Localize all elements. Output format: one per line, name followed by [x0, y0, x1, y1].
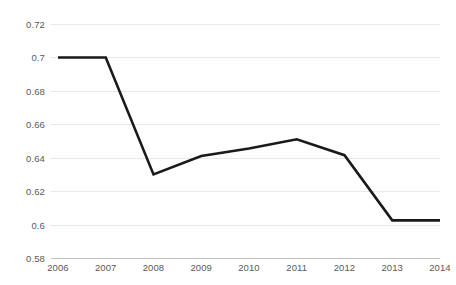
- plot-area: 0.720.70.680.660.640.620.60.58 200620072…: [0, 0, 456, 285]
- series-line-path: [58, 57, 440, 220]
- series-svg: [0, 0, 456, 285]
- line-chart: 0.720.70.680.660.640.620.60.58 200620072…: [0, 0, 456, 285]
